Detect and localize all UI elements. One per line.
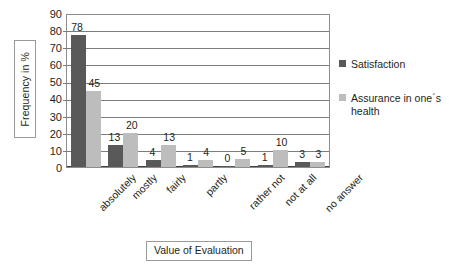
y-tick-90: 90 [34, 9, 62, 20]
bar[interactable]: 0 [220, 166, 235, 167]
x-tick: partly [179, 170, 217, 234]
x-axis-title-text: Value of Evaluation [154, 244, 244, 256]
y-tick-80: 80 [34, 26, 62, 37]
bar-group: 14 [179, 15, 216, 167]
y-tick-60: 60 [34, 60, 62, 71]
y-tick-40: 40 [34, 94, 62, 105]
legend: Satisfaction Assurance in one´s health [339, 58, 451, 139]
bar-value-label: 3 [315, 149, 321, 160]
bar-value-label: 4 [203, 147, 209, 158]
bar-value-label: 4 [150, 147, 156, 158]
x-tick: not at all [255, 170, 293, 234]
bar[interactable]: 13 [108, 145, 123, 167]
bar-group: 413 [142, 15, 179, 167]
bar[interactable]: 3 [295, 162, 310, 167]
bar-value-label: 3 [299, 149, 305, 160]
x-axis-tick-labels: absolutelymostlyfairlypartlyrather notno… [66, 170, 330, 234]
y-tick-20: 20 [34, 129, 62, 140]
bar[interactable]: 20 [123, 133, 138, 167]
x-axis-title: Value of Evaluation [146, 241, 252, 261]
bar[interactable]: 1 [258, 165, 273, 167]
bar[interactable]: 4 [146, 160, 161, 167]
bar[interactable]: 5 [235, 159, 250, 167]
bar[interactable]: 78 [71, 35, 86, 167]
bar[interactable]: 10 [273, 150, 288, 167]
bar-chart: Frequency in % 90 80 70 60 50 40 30 20 1… [0, 0, 453, 272]
plot-area: 78451320413140511033 [66, 14, 330, 168]
bar-group: 1320 [104, 15, 141, 167]
y-tick-30: 30 [34, 112, 62, 123]
bar[interactable]: 1 [183, 165, 198, 167]
x-tick: rather not [217, 170, 255, 234]
legend-label-assurance: Assurance in one´s health [351, 92, 451, 118]
y-axis-title: Frequency in % [14, 40, 36, 138]
bar-group: 33 [292, 15, 329, 167]
x-tick: no answer [292, 170, 330, 234]
bar[interactable]: 45 [86, 91, 101, 167]
bar-group: 7845 [67, 15, 104, 167]
bar[interactable]: 13 [161, 145, 176, 167]
x-tick: fairly [141, 170, 179, 234]
x-tick: mostly [104, 170, 142, 234]
legend-swatch-icon-satisfaction [339, 60, 346, 67]
bar-value-label: 10 [276, 137, 288, 148]
y-axis-tick-labels: 90 80 70 60 50 40 30 20 10 0 [34, 0, 62, 272]
bar-groups: 78451320413140511033 [67, 15, 329, 167]
y-axis-title-text: Frequency in % [20, 52, 31, 126]
y-tick-10: 10 [34, 146, 62, 157]
x-tick: absolutely [66, 170, 104, 234]
bar[interactable]: 4 [198, 160, 213, 167]
bar-value-label: 78 [71, 22, 83, 33]
legend-label-satisfaction: Satisfaction [351, 58, 405, 71]
y-tick-0: 0 [34, 163, 62, 174]
bar-value-label: 5 [241, 146, 247, 157]
bar-value-label: 0 [224, 153, 230, 164]
bar-group: 05 [217, 15, 254, 167]
bar-value-label: 13 [163, 132, 175, 143]
legend-item-assurance[interactable]: Assurance in one´s health [339, 92, 451, 118]
bar[interactable]: 3 [310, 162, 325, 167]
legend-item-satisfaction[interactable]: Satisfaction [339, 58, 451, 71]
bar-value-label: 13 [109, 132, 121, 143]
y-tick-50: 50 [34, 77, 62, 88]
bar-value-label: 1 [262, 152, 268, 163]
bar-group: 110 [254, 15, 291, 167]
bar-value-label: 20 [126, 120, 138, 131]
bar-value-label: 1 [187, 152, 193, 163]
y-tick-70: 70 [34, 43, 62, 54]
legend-swatch-icon-assurance [339, 94, 346, 101]
bar-value-label: 45 [89, 78, 101, 89]
x-tick-label: no answer [323, 172, 365, 214]
